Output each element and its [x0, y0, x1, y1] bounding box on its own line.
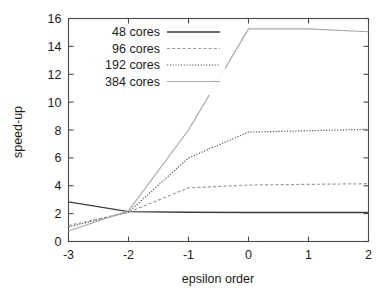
- y-tick-label: 14: [48, 40, 62, 54]
- x-axis-tick-labels: -3-2-1012: [63, 248, 372, 262]
- y-tick-label: 0: [55, 235, 62, 249]
- y-tick-label: 4: [55, 179, 62, 193]
- series-line-1: [69, 184, 369, 226]
- speed-up-line-chart: 0246810121416 -3-2-1012 speed-up epsilon…: [0, 0, 392, 292]
- y-axis-tick-labels: 0246810121416: [48, 12, 62, 249]
- y-tick-label: 12: [48, 68, 62, 82]
- x-axis-title: epsilon order: [182, 272, 254, 286]
- series-line-0: [69, 202, 369, 213]
- x-tick-label: -3: [63, 248, 74, 262]
- y-tick-label: 16: [48, 12, 62, 26]
- y-tick-label: 6: [55, 151, 62, 165]
- y-tick-label: 10: [48, 96, 62, 110]
- x-tick-label: -2: [123, 248, 134, 262]
- y-axis-title: speed-up: [11, 106, 25, 158]
- chart-figure: 0246810121416 -3-2-1012 speed-up epsilon…: [0, 0, 392, 292]
- x-tick-label: -1: [183, 248, 194, 262]
- x-tick-label: 0: [245, 248, 252, 262]
- y-tick-label: 8: [55, 124, 62, 138]
- chart-legend: 48 cores96 cores192 cores384 cores: [77, 24, 225, 95]
- legend-label-3: 384 cores: [105, 75, 160, 89]
- legend-label-1: 96 cores: [112, 42, 160, 56]
- legend-label-2: 192 cores: [105, 58, 160, 72]
- y-tick-label: 2: [55, 207, 62, 221]
- x-tick-label: 1: [305, 248, 312, 262]
- x-tick-label: 2: [365, 248, 372, 262]
- legend-label-0: 48 cores: [112, 25, 160, 39]
